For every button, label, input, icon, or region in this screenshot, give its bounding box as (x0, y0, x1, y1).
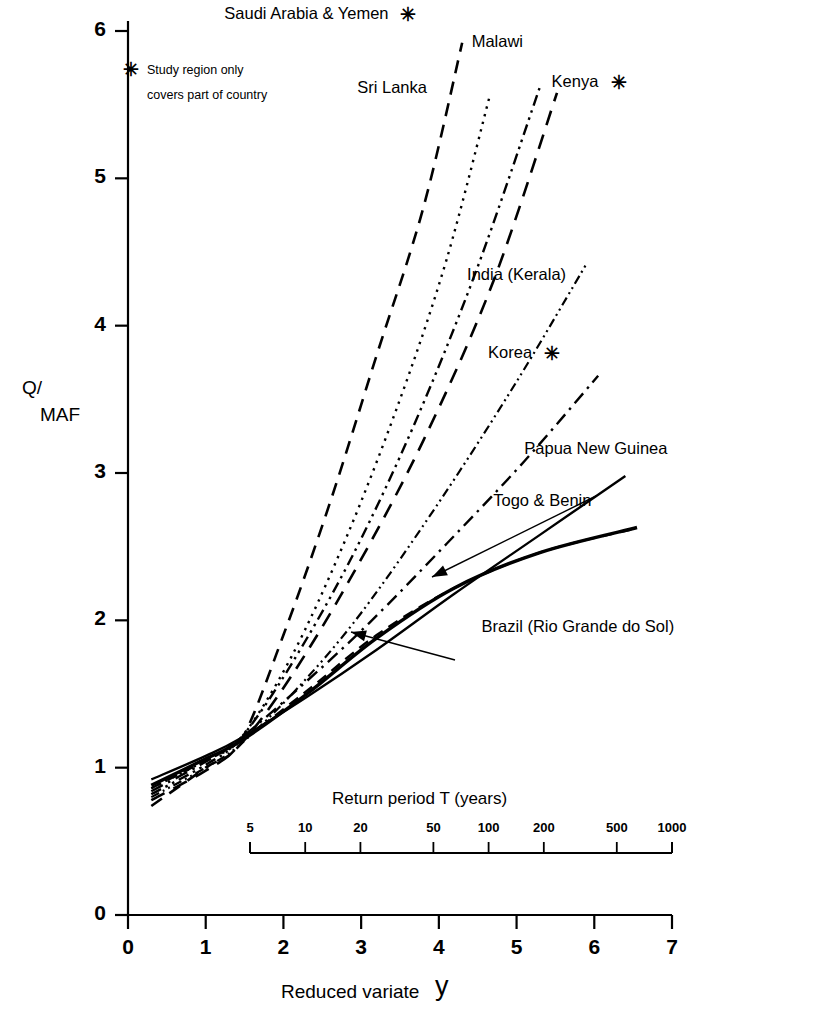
return-period-tick-label: 10 (283, 820, 327, 835)
leader-togo-benin-head (432, 565, 448, 577)
series-label-brazil-rio-grande-do-sol: Brazil (Rio Grande do Sol) (482, 617, 675, 636)
return-period-tick-label: 20 (338, 820, 382, 835)
note-line-2: covers part of country (147, 88, 267, 102)
series-label-kenya: Kenya (552, 72, 599, 91)
x-tick-label: 0 (113, 935, 143, 959)
return-period-tick-label: 1000 (650, 820, 694, 835)
y-axis-title-line2: MAF (40, 404, 80, 426)
series-label-togo-benin: Togo & Benin (493, 491, 591, 510)
y-tick-label: 2 (86, 606, 106, 630)
return-period-tick-label: 5 (228, 820, 272, 835)
return-period-axis-title: Return period T (years) (332, 789, 507, 809)
y-tick-label: 3 (86, 459, 106, 483)
series-label-sri-lanka: Sri Lanka (357, 78, 427, 97)
x-tick-label: 4 (424, 935, 454, 959)
asterisk-marker-icon: ✳ (400, 5, 416, 24)
series-line-malawi (151, 87, 540, 794)
x-tick-label: 1 (191, 935, 221, 959)
x-tick-label: 3 (346, 935, 376, 959)
y-axis-title-line1: Q/ (22, 377, 42, 399)
note-line-1: Study region only (147, 63, 244, 77)
x-tick-label: 6 (579, 935, 609, 959)
x-tick-label: 7 (657, 935, 687, 959)
series-label-saudi-arabia-yemen: Saudi Arabia & Yemen (224, 4, 388, 23)
x-tick-label: 2 (268, 935, 298, 959)
figure-chart: Q/ MAF ✳ Study region only covers part o… (0, 0, 839, 1033)
x-axis-title: Reduced variate (281, 981, 419, 1003)
return-period-tick-label: 500 (595, 820, 639, 835)
series-line-kenya (151, 93, 557, 800)
return-period-tick-label: 50 (411, 820, 455, 835)
series-label-korea: Korea (488, 343, 532, 362)
asterisk-marker-icon: ✳ (611, 73, 627, 92)
y-tick-label: 0 (86, 901, 106, 925)
y-tick-label: 1 (86, 754, 106, 778)
asterisk-note-icon: ✳ (123, 60, 139, 79)
return-period-tick-label: 100 (467, 820, 511, 835)
x-axis-title-symbol: y (435, 971, 449, 1002)
series-label-papua-new-guinea: Papua New Guinea (524, 439, 667, 458)
return-period-tick-label: 200 (522, 820, 566, 835)
series-label-malawi: Malawi (472, 32, 523, 51)
y-tick-label: 6 (86, 17, 106, 41)
plot-svg (0, 0, 839, 1033)
x-tick-label: 5 (502, 935, 532, 959)
y-tick-label: 4 (86, 312, 106, 336)
y-tick-label: 5 (86, 164, 106, 188)
series-label-india-kerala: India (Kerala) (467, 265, 566, 284)
asterisk-marker-icon: ✳ (544, 344, 560, 363)
